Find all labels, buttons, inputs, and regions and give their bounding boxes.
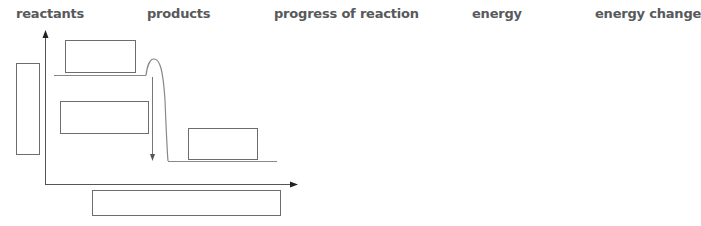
y-axis [43,30,49,185]
energy-change-arrow [150,77,155,161]
x-axis [45,182,298,188]
reactants-box[interactable] [66,41,136,73]
energy-change-box[interactable] [61,102,149,134]
y-axis-label-box[interactable] [17,64,40,155]
down-arrow-icon [150,154,155,161]
reaction-path-curve [146,59,168,161]
x-axis-label-box[interactable] [93,191,281,216]
x-axis-arrow-icon [290,182,298,188]
products-box[interactable] [189,129,258,160]
y-axis-arrow-icon [43,30,49,38]
